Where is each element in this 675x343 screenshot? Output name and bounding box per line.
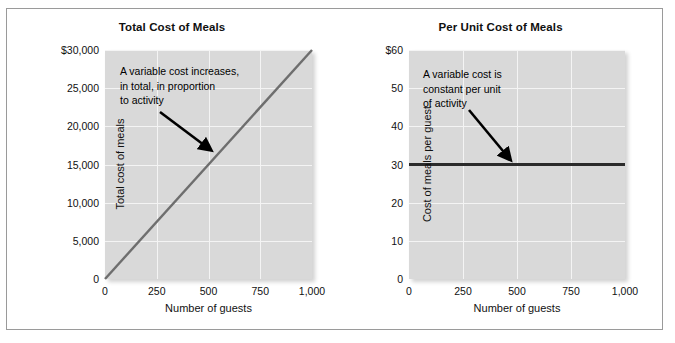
ytick-left-6: $30,000 <box>61 44 99 56</box>
ytick-right-0: 0 <box>397 273 403 285</box>
ytick-left-3: 15,000 <box>67 159 99 171</box>
xtick-right-4: 1,000 <box>612 285 638 297</box>
ytick-right-6: $60 <box>385 44 403 56</box>
xtick-left-4: 1,000 <box>299 285 325 297</box>
xtick-left-0: 0 <box>102 285 108 297</box>
ytick-right-5: 50 <box>391 82 403 94</box>
ytick-right-4: 40 <box>391 120 403 132</box>
ytick-left-0: 0 <box>93 273 99 285</box>
chart-per-unit-cost-of-meals: Per Unit Cost of Meals A variable cost i… <box>337 9 664 329</box>
xtick-left-2: 500 <box>200 285 218 297</box>
ytick-left-4: 20,000 <box>67 120 99 132</box>
figure-panel: Total Cost of Meals A variable cost incr… <box>6 8 663 330</box>
chart-title-right: Per Unit Cost of Meals <box>337 21 664 33</box>
ytick-right-2: 20 <box>391 197 403 209</box>
ytick-right-1: 10 <box>391 235 403 247</box>
xaxis-label-left: Number of guests <box>105 302 312 314</box>
yaxis-label-right: Cost of meals per guest <box>421 84 433 244</box>
xtick-right-3: 750 <box>562 285 580 297</box>
ytick-left-1: 5,000 <box>73 235 99 247</box>
xtick-right-0: 0 <box>406 285 412 297</box>
chart-total-cost-of-meals: Total Cost of Meals A variable cost incr… <box>7 9 337 329</box>
plot-area-right: A variable cost is constant per unit of … <box>409 50 625 279</box>
xtick-right-2: 500 <box>508 285 526 297</box>
xtick-left-3: 750 <box>251 285 269 297</box>
ytick-right-3: 30 <box>391 159 403 171</box>
plot-area-left: A variable cost increases, in total, in … <box>105 50 312 279</box>
xaxis-label-right: Number of guests <box>409 302 625 314</box>
annotation-arrow-right-icon <box>409 50 625 279</box>
chart-title-left: Total Cost of Meals <box>7 21 337 33</box>
ytick-left-2: 10,000 <box>67 197 99 209</box>
xtick-right-1: 250 <box>454 285 472 297</box>
yaxis-label-left: Total cost of meals <box>114 84 126 244</box>
annotation-arrow-left-icon <box>105 50 312 279</box>
xtick-left-1: 250 <box>148 285 166 297</box>
ytick-left-5: 25,000 <box>67 82 99 94</box>
